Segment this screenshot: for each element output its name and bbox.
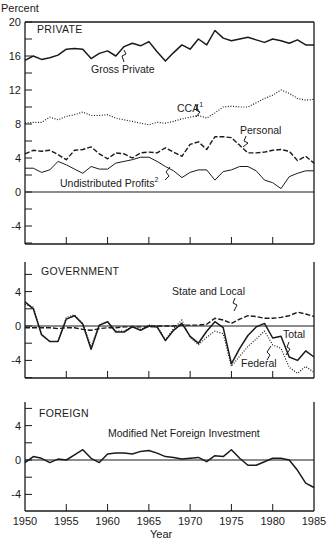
series-line-total bbox=[25, 302, 314, 364]
x-tick-label: 1960 bbox=[95, 515, 119, 527]
y-tick-label: 4 bbox=[15, 420, 21, 432]
x-tick-label: 1975 bbox=[219, 515, 243, 527]
y-tick-label: 0 bbox=[15, 454, 21, 466]
x-tick-label: 1985 bbox=[302, 515, 326, 527]
label-mnfi: Modified Net Foreign Investment bbox=[108, 427, 260, 439]
label-cca-text: CCA bbox=[177, 102, 199, 114]
x-axis-label: Year bbox=[150, 528, 173, 540]
y-tick-label: 12 bbox=[9, 84, 21, 96]
series-line-cca bbox=[25, 90, 314, 125]
label-total: Total bbox=[283, 328, 305, 340]
y-axis-label: Percent bbox=[1, 2, 39, 14]
panel-title-foreign: FOREIGN bbox=[39, 407, 89, 419]
arrow-state-local bbox=[233, 298, 237, 311]
arrow-gross-private bbox=[122, 50, 126, 62]
chart-canvas: Percent PRIVATE Gross Private CCA1 Perso… bbox=[0, 0, 329, 548]
panel-title-private: PRIVATE bbox=[37, 23, 82, 35]
label-federal: Federal bbox=[241, 357, 277, 369]
x-tick-label: 1950 bbox=[13, 515, 37, 527]
y-tick-label: 4 bbox=[15, 152, 21, 164]
series-line-gross-private bbox=[25, 31, 314, 62]
label-undistributed-sup: 2 bbox=[155, 176, 159, 183]
y-tick-label: 0 bbox=[15, 186, 21, 198]
series-line-modified-net-foreign-investment bbox=[25, 450, 314, 488]
x-tick-label: 1970 bbox=[178, 515, 202, 527]
series-line-state-and-local bbox=[25, 312, 314, 330]
y-tick-label: 0 bbox=[15, 320, 21, 332]
y-tick-label: 20 bbox=[9, 16, 21, 28]
y-tick-label: 4 bbox=[15, 286, 21, 298]
label-cca-sup: 1 bbox=[199, 101, 203, 108]
label-undistributed-text: Undistributed Profits bbox=[60, 177, 155, 189]
panel-government: GOVERNMENT State and Local Total Federal… bbox=[11, 262, 314, 378]
x-tick-label: 1955 bbox=[54, 515, 78, 527]
panel-private: PRIVATE Gross Private CCA1 Personal Undi… bbox=[9, 16, 314, 244]
panel-foreign: FOREIGN Modified Net Foreign Investment … bbox=[11, 402, 326, 527]
y-tick-label: 8 bbox=[15, 118, 21, 130]
y-tick-label: -4 bbox=[11, 220, 21, 232]
y-tick-label: -4 bbox=[11, 354, 21, 366]
arrow-personal bbox=[243, 136, 248, 147]
y-tick-label: -4 bbox=[11, 488, 21, 500]
label-undistributed-profits: Undistributed Profits2 bbox=[60, 176, 159, 189]
label-personal: Personal bbox=[240, 124, 281, 136]
x-tick-label: 1965 bbox=[137, 515, 161, 527]
label-gross-private: Gross Private bbox=[91, 63, 155, 75]
x-tick-label: 1980 bbox=[260, 515, 284, 527]
y-tick-label: 16 bbox=[9, 50, 21, 62]
series-line-personal bbox=[25, 137, 314, 163]
panel-title-government: GOVERNMENT bbox=[41, 265, 120, 277]
label-state-local: State and Local bbox=[172, 285, 245, 297]
